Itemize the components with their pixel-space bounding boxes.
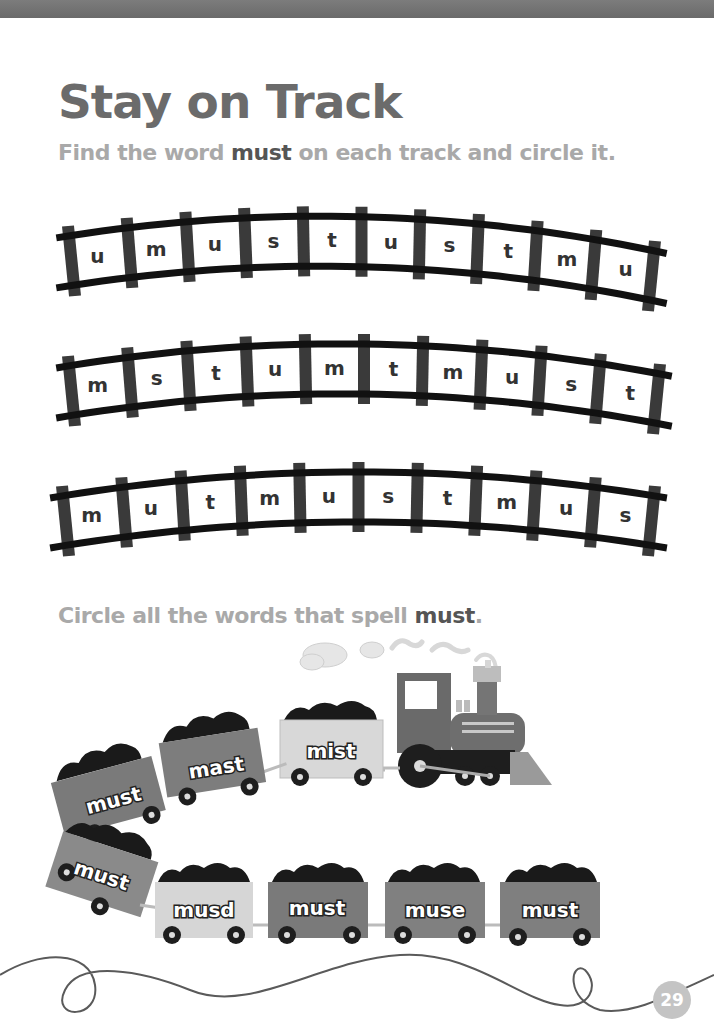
track-letter[interactable]: m: [442, 360, 463, 384]
page-number-badge: 29: [653, 981, 691, 1019]
track-letter[interactable]: t: [205, 490, 215, 514]
track-1: umustustmu: [56, 206, 666, 311]
track-letter[interactable]: t: [389, 357, 399, 381]
track-2: mstumtmust: [56, 334, 672, 434]
bottom-train: musd must muse must: [140, 863, 600, 946]
track-letter[interactable]: s: [444, 233, 456, 257]
track-letter[interactable]: t: [503, 239, 513, 263]
track-letter[interactable]: u: [559, 496, 573, 520]
track-letter[interactable]: u: [90, 244, 104, 268]
track-letter[interactable]: m: [87, 373, 108, 397]
car-word: musd: [173, 898, 234, 922]
track-letter[interactable]: m: [146, 237, 167, 261]
tracks-group: umustustmumstumtmustmutmustmus: [50, 206, 672, 556]
track-letter[interactable]: t: [626, 381, 636, 405]
coal-car: must: [500, 863, 600, 946]
car-word: must: [289, 896, 346, 920]
track-letter[interactable]: m: [557, 247, 578, 271]
coal-car: musd: [155, 863, 253, 944]
track-letter[interactable]: u: [322, 484, 336, 508]
track-letter[interactable]: u: [208, 232, 222, 256]
track-letter[interactable]: m: [81, 503, 102, 527]
track-letter[interactable]: t: [327, 228, 337, 252]
decorative-string: [0, 955, 714, 1012]
coal-car: must: [268, 863, 368, 944]
track-letter[interactable]: s: [619, 503, 631, 527]
page-number: 29: [660, 990, 684, 1010]
track-letter[interactable]: m: [324, 356, 345, 380]
track-letter[interactable]: u: [268, 357, 282, 381]
track-letter[interactable]: u: [505, 365, 519, 389]
track-letter[interactable]: s: [151, 366, 163, 390]
coal-car: mast: [156, 704, 291, 809]
track-letter[interactable]: u: [384, 230, 398, 254]
track-letter[interactable]: m: [259, 486, 280, 510]
locomotive-icon: [383, 660, 552, 788]
track-letter[interactable]: t: [211, 361, 221, 385]
track-letter[interactable]: t: [443, 486, 453, 510]
track-letter[interactable]: s: [565, 372, 577, 396]
track-letter[interactable]: u: [144, 496, 158, 520]
track-letter[interactable]: m: [496, 490, 517, 514]
coal-car: muse: [385, 863, 485, 944]
smoke-clouds-icon: [300, 641, 496, 672]
car-word: muse: [405, 898, 466, 922]
worksheet-art: umustustmumstumtmustmutmustmus: [0, 0, 714, 1029]
track-letter[interactable]: s: [382, 484, 394, 508]
track-letter[interactable]: u: [619, 257, 633, 281]
coal-car: must: [42, 812, 165, 928]
track-letter[interactable]: s: [267, 229, 279, 253]
coal-car: mist: [280, 701, 385, 786]
car-word: mist: [306, 739, 356, 763]
track-3: mutmustmus: [50, 462, 667, 556]
car-word: must: [522, 898, 579, 922]
